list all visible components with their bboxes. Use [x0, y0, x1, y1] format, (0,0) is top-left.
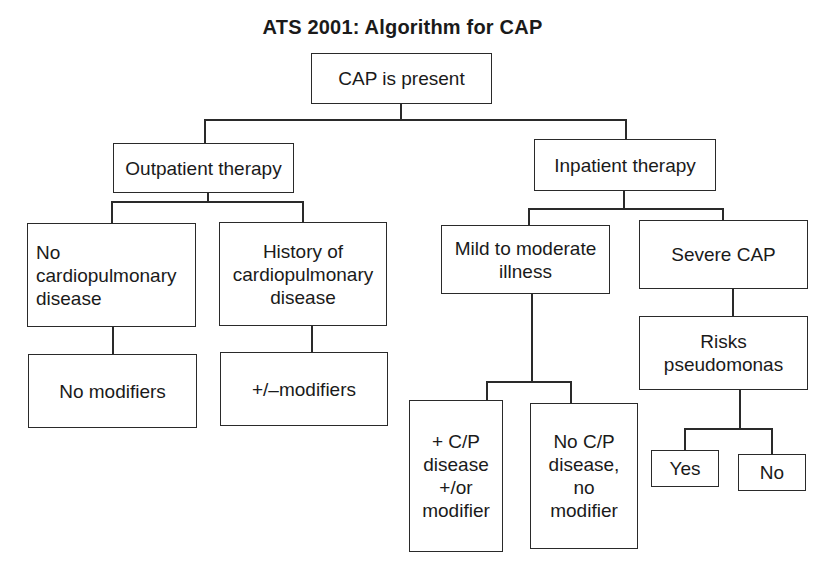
connector — [771, 428, 773, 454]
connector — [625, 119, 627, 139]
connector — [528, 208, 530, 225]
node-severe-cap: Severe CAP — [639, 220, 808, 289]
connector — [111, 201, 304, 203]
connector — [739, 389, 741, 429]
connector — [112, 326, 114, 354]
node-no-cp-disease-no-modifier: No C/P disease, no modifier — [530, 403, 638, 549]
node-no: No — [738, 454, 806, 491]
node-plus-minus-modifiers: +/–modifiers — [220, 352, 388, 426]
node-mild-to-moderate-illness: Mild to moderate illness — [441, 225, 610, 294]
connector — [204, 119, 206, 143]
connector — [732, 288, 734, 316]
connector — [531, 293, 533, 382]
node-cp-disease-or-modifier: + C/P disease +/or modifier — [409, 400, 503, 552]
diagram-title: ATS 2001: Algorithm for CAP — [0, 16, 835, 39]
connector — [400, 103, 402, 120]
connector — [528, 208, 723, 210]
node-risks-pseudomonas: Risks pseudomonas — [639, 316, 808, 390]
connector — [722, 208, 724, 220]
node-no-modifiers: No modifiers — [28, 354, 197, 428]
connector — [302, 201, 304, 222]
node-inpatient-therapy: Inpatient therapy — [534, 139, 716, 191]
node-cap-present: CAP is present — [311, 53, 492, 104]
connector — [111, 201, 113, 223]
node-history-cardiopulmonary-disease: History of cardiopulmonary disease — [219, 222, 387, 326]
connector — [684, 428, 772, 430]
connector — [486, 381, 488, 400]
connector — [623, 190, 625, 209]
connector — [486, 381, 571, 383]
node-no-cardiopulmonary-disease: No cardiopulmonary disease — [27, 223, 196, 327]
connector — [570, 381, 572, 403]
node-yes: Yes — [651, 450, 719, 487]
connector — [311, 325, 313, 352]
connector — [204, 119, 626, 121]
connector — [684, 428, 686, 450]
node-outpatient-therapy: Outpatient therapy — [113, 143, 294, 193]
